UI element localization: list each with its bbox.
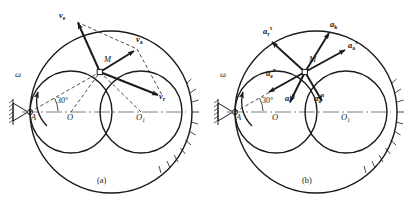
figure-container: ve va vr ω M A O O1 30° arτ ak aaτ aen a…	[0, 0, 411, 197]
point-m-marker-a	[97, 69, 102, 74]
label-vector-ae-n: aen	[266, 69, 276, 78]
radius-am-a	[30, 72, 100, 112]
label-vector-aa-n: aan	[314, 94, 324, 103]
label-omega-a: ω	[15, 70, 21, 79]
radius-om-a	[71, 72, 100, 112]
vector-ve-a	[78, 23, 100, 72]
caption-b: (b)	[302, 176, 312, 185]
label-vector-aa-tau: aaτ	[348, 41, 358, 50]
label-angle-b: 30°	[262, 97, 273, 105]
omega-arc-a	[37, 92, 47, 126]
label-angle-a: 30°	[57, 97, 68, 105]
label-vector-vr: vr	[159, 92, 165, 101]
label-vector-ar-tau: arτ	[263, 27, 272, 36]
caption-a: (a)	[97, 176, 106, 185]
label-point-a-b: A	[236, 113, 241, 122]
label-omega-b: ω	[220, 70, 226, 79]
vector-ar-tau-b	[272, 42, 305, 72]
label-point-m-b: M	[309, 55, 316, 64]
label-vector-ak: ak	[330, 20, 337, 29]
panel-a-group	[9, 22, 199, 193]
label-vector-ve: ve	[59, 11, 65, 20]
label-point-m-a: M	[104, 55, 111, 64]
vector-vr-a	[100, 72, 158, 95]
label-vector-ar-n: arn	[285, 94, 295, 103]
label-point-o-b: O	[272, 113, 278, 122]
point-m-marker-b	[302, 69, 307, 74]
label-point-o-a: O	[67, 113, 73, 122]
label-point-o1-b: O1	[341, 113, 350, 122]
omega-arc-b	[242, 92, 252, 126]
label-point-a-a: A	[31, 113, 36, 122]
label-vector-va: va	[136, 35, 143, 44]
label-point-o1-a: O1	[136, 113, 145, 122]
